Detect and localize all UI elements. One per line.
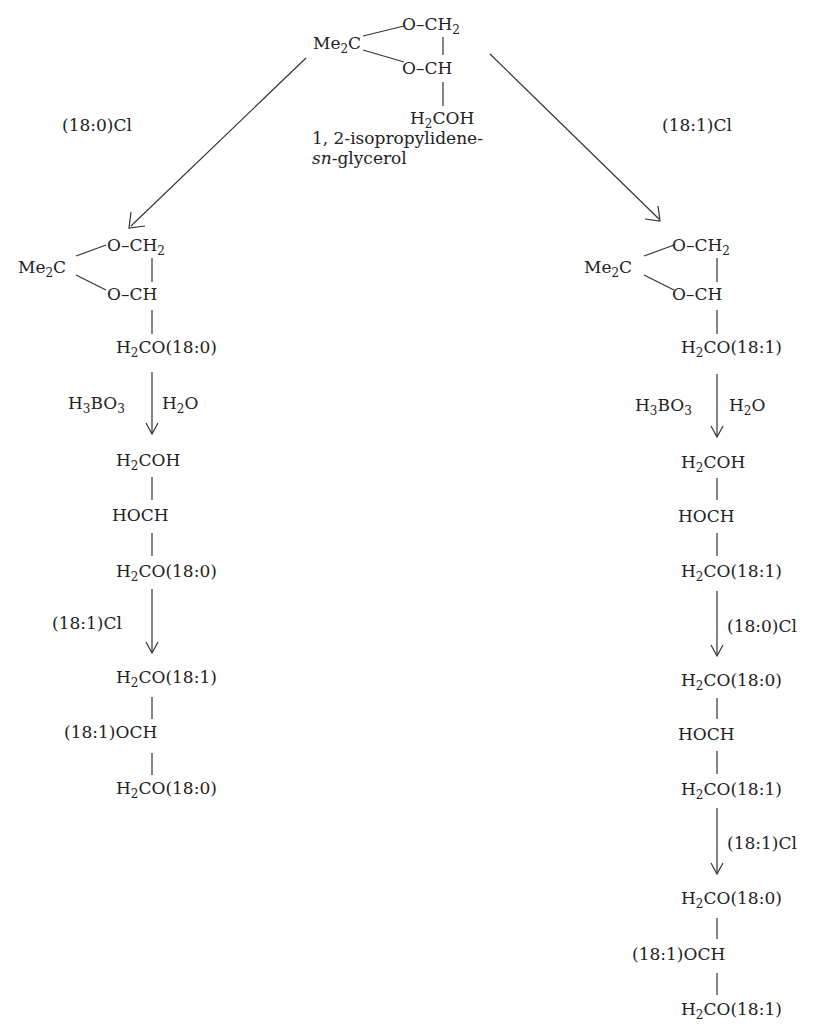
- right-int2-row1: H2COH: [681, 452, 745, 472]
- right-product-row2: (18:1)OCH: [632, 944, 725, 964]
- left-reagent1: (18:0)Cl: [62, 115, 132, 135]
- start-name-rest: -glycerol: [332, 148, 407, 168]
- start-tail: H2COH: [410, 108, 474, 128]
- start-ring-top: O–CH2: [402, 14, 460, 34]
- left-step2-reagent-right: H2O: [162, 393, 198, 413]
- left-int2-row2: HOCH: [112, 505, 169, 525]
- ring-bond: [363, 50, 404, 62]
- right-step3-reagent: (18:0)Cl: [727, 616, 797, 636]
- ring-bond: [644, 275, 674, 290]
- start-name-italic: sn: [312, 148, 332, 168]
- left-int1-ring-top: O–CH2: [107, 235, 165, 255]
- right-int1-ring-carbon: Me2C: [584, 257, 632, 277]
- right-int3-row3: H2CO(18:1): [681, 779, 782, 799]
- left-int1-ring-bottom: O–CH: [107, 284, 157, 304]
- right-step2-reagent-right: H2O: [729, 395, 765, 415]
- start-ring-carbon: Me2C: [313, 33, 361, 53]
- right-int3-row2: HOCH: [678, 724, 735, 744]
- left-int2-row1: H2COH: [116, 450, 180, 470]
- right-step4-reagent: (18:1)Cl: [727, 833, 797, 853]
- ring-bond: [76, 275, 106, 290]
- right-product-row3: H2CO(18:1): [681, 999, 782, 1019]
- start-ring-bottom: O–CH: [402, 58, 452, 78]
- right-step2-reagent-left: H3BO3: [635, 395, 692, 415]
- left-product-row3: H2CO(18:0): [116, 778, 217, 798]
- left-step2-reagent-left: H3BO3: [68, 393, 125, 413]
- right-int1-ring-top: O–CH2: [672, 235, 730, 255]
- left-step3-reagent: (18:1)Cl: [52, 613, 122, 633]
- start-name-line1: 1, 2-isopropylidene-: [312, 128, 483, 148]
- right-product-row1: H2CO(18:0): [681, 888, 782, 908]
- left-int2-row3: H2CO(18:0): [116, 561, 217, 581]
- left-int1-ring-carbon: Me2C: [18, 257, 66, 277]
- left-int1-tail: H2CO(18:0): [116, 337, 217, 357]
- right-int2-row3: H2CO(18:1): [681, 561, 782, 581]
- right-int2-row2: HOCH: [678, 506, 735, 526]
- arrow-left-branch: [131, 58, 306, 226]
- right-int3-row1: H2CO(18:0): [681, 670, 782, 690]
- ring-bond: [76, 245, 106, 256]
- right-int1-ring-bottom: O–CH: [672, 284, 722, 304]
- arrow-right-branch: [490, 54, 659, 219]
- start-name-line2: sn-glycerol: [312, 148, 407, 168]
- ring-bond: [644, 245, 674, 256]
- left-product-row1: H2CO(18:1): [116, 667, 217, 687]
- left-product-row2: (18:1)OCH: [64, 722, 157, 742]
- ring-bond: [363, 26, 404, 36]
- right-int1-tail: H2CO(18:1): [681, 337, 782, 357]
- right-reagent1: (18:1)Cl: [662, 115, 732, 135]
